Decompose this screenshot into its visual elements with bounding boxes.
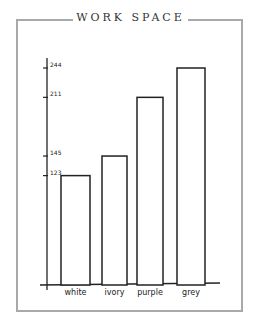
x-tick-label: purple bbox=[137, 288, 163, 297]
y-tick-label: 244 bbox=[50, 61, 62, 68]
x-tick-label: grey bbox=[182, 288, 200, 297]
y-tick-label: 211 bbox=[50, 90, 62, 97]
x-tick-label: ivory bbox=[105, 288, 125, 297]
bar-white bbox=[61, 176, 90, 285]
y-tick-label: 123 bbox=[50, 169, 62, 176]
y-tick-label: 145 bbox=[50, 149, 62, 156]
bar-grey bbox=[177, 68, 205, 285]
x-tick-label: white bbox=[65, 288, 87, 297]
bar-ivory bbox=[102, 156, 127, 285]
bar-purple bbox=[137, 97, 163, 285]
bar-chart: whiteivorypurplegrey123145211244 bbox=[0, 0, 261, 327]
